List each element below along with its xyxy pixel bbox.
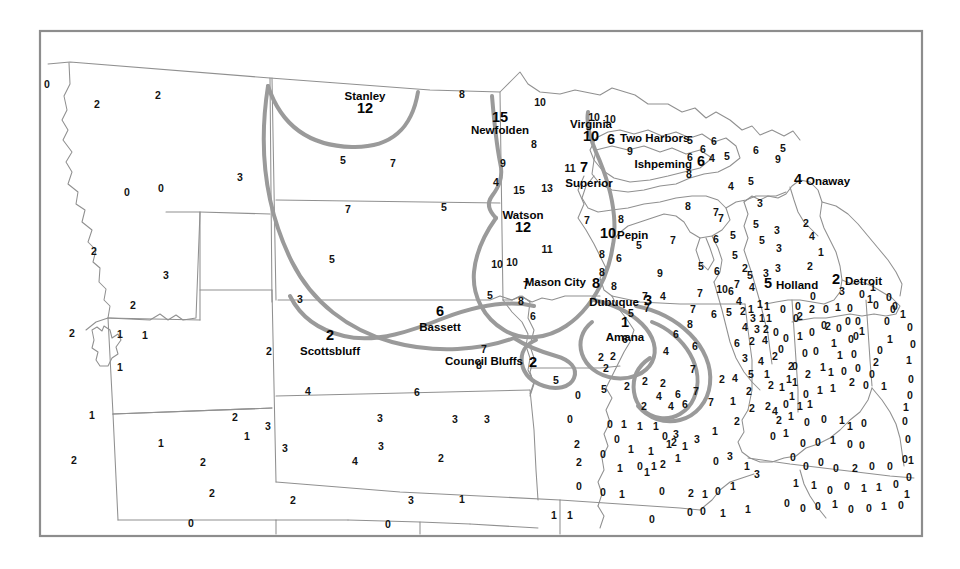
city-label-amana: 1Amana xyxy=(606,314,645,343)
station-value: 2 xyxy=(641,400,647,412)
station-value: 0 xyxy=(910,338,916,350)
station-value: 1 xyxy=(830,434,836,446)
colorado-south-line xyxy=(113,408,272,414)
station-value: 6 xyxy=(692,340,698,352)
station-value: 0 xyxy=(783,398,789,410)
station-value: 1 xyxy=(621,418,627,430)
station-value: 2 xyxy=(719,373,725,385)
station-value: 3 xyxy=(754,468,760,480)
station-value: 4 xyxy=(668,400,674,412)
station-value: 11 xyxy=(564,162,575,174)
station-value: 1 xyxy=(744,460,750,472)
station-value: 1 xyxy=(244,430,250,442)
city-label-newfolden: 15Newfolden xyxy=(471,109,529,136)
station-value: 0 xyxy=(845,315,851,327)
station-value: 6 xyxy=(530,310,536,322)
station-value: 2 xyxy=(768,379,774,391)
station-value: 1 xyxy=(117,328,123,340)
station-value: 1 xyxy=(764,300,770,312)
station-value: 0 xyxy=(800,502,806,514)
station-value: 3 xyxy=(163,269,169,281)
station-value: 2 xyxy=(788,360,794,372)
city-value: 12 xyxy=(515,219,531,235)
station-value: 2 xyxy=(209,487,215,499)
station-value: 0 xyxy=(188,517,194,529)
station-value: 8 xyxy=(685,200,691,212)
station-value: 1 xyxy=(789,390,795,402)
station-value: 1 xyxy=(831,337,837,349)
station-value: 7 xyxy=(718,212,724,224)
station-value: 4 xyxy=(660,290,666,302)
city-value: 6 xyxy=(436,303,444,319)
station-value: 1 xyxy=(653,420,659,432)
station-value: 0 xyxy=(833,462,839,474)
station-value: 1 xyxy=(839,414,845,426)
station-value: 6 xyxy=(673,328,679,340)
station-value: 1 xyxy=(797,400,803,412)
city-labels-layer: 12Stanley15Newfolden10Virginia6Two Harbo… xyxy=(300,90,882,370)
city-value: 7 xyxy=(580,159,588,175)
station-value: 5 xyxy=(753,218,759,230)
station-value: 0 xyxy=(906,471,912,483)
station-value: 4 xyxy=(742,321,748,333)
station-value: 0 xyxy=(841,365,847,377)
station-value: 1 xyxy=(797,330,803,342)
station-value: 7 xyxy=(481,343,487,355)
station-value: 15 xyxy=(513,184,525,196)
station-value: 2 xyxy=(624,380,630,392)
kansas-oklahoma-line xyxy=(276,482,560,500)
station-value: 1 xyxy=(628,443,634,455)
station-value: 5 xyxy=(698,260,704,272)
station-value: 5 xyxy=(747,269,753,281)
city-name: Onaway xyxy=(806,175,851,187)
station-value: 0 xyxy=(770,430,776,442)
city-value: 10 xyxy=(600,225,616,241)
station-value: 0 xyxy=(800,437,806,449)
station-value: 1 xyxy=(779,381,785,393)
station-value: 2 xyxy=(807,260,813,272)
station-value: 3 xyxy=(757,197,763,209)
station-value: 0 xyxy=(902,415,908,427)
station-value: 0 xyxy=(567,413,573,425)
station-value: 1 xyxy=(820,361,826,373)
station-value: 1 xyxy=(887,333,893,345)
station-value: 6 xyxy=(753,144,759,156)
station-value: 1 xyxy=(745,503,751,515)
station-value: 0 xyxy=(861,417,867,429)
station-value: 0 xyxy=(803,460,809,472)
city-label-detroit: 2Detroit xyxy=(832,271,882,287)
station-value: 1 xyxy=(567,509,573,521)
station-value: 0 xyxy=(855,315,861,327)
station-value: 7 xyxy=(734,278,740,290)
station-value: 3 xyxy=(297,293,303,305)
city-name: Mason City xyxy=(525,276,587,288)
station-value: 1 xyxy=(730,395,736,407)
station-value: 0 xyxy=(823,303,829,315)
station-value: 0 xyxy=(818,456,824,468)
station-value: 3 xyxy=(727,450,733,462)
station-value: 0 xyxy=(158,182,164,194)
city-value: 2 xyxy=(832,271,840,287)
station-value: 0 xyxy=(851,348,857,360)
city-name: Ishpeming xyxy=(634,158,692,170)
station-value: 0 xyxy=(893,478,899,490)
station-value: 1 xyxy=(712,425,718,437)
map-svg: 0220032321112112221322043235757585678633… xyxy=(0,0,960,569)
station-value: 5 xyxy=(487,289,493,301)
station-value: 10 xyxy=(534,96,546,108)
station-value: 1 xyxy=(818,246,824,258)
station-value: 3 xyxy=(378,440,384,452)
station-value: 2 xyxy=(574,438,580,450)
station-value: 1 xyxy=(142,329,148,341)
city-label-onaway: 4Onaway xyxy=(794,171,851,187)
station-value: 0 xyxy=(600,448,606,460)
station-value: 2 xyxy=(91,245,97,257)
station-value: 3 xyxy=(408,494,414,506)
station-value: 0 xyxy=(866,502,872,514)
station-value: 1 xyxy=(702,488,708,500)
station-value: 1 xyxy=(648,445,654,457)
station-value: 1 xyxy=(811,479,817,491)
station-value: 0 xyxy=(863,379,869,391)
nebraska-kansas-line xyxy=(276,390,530,396)
station-value: 7 xyxy=(697,287,703,299)
